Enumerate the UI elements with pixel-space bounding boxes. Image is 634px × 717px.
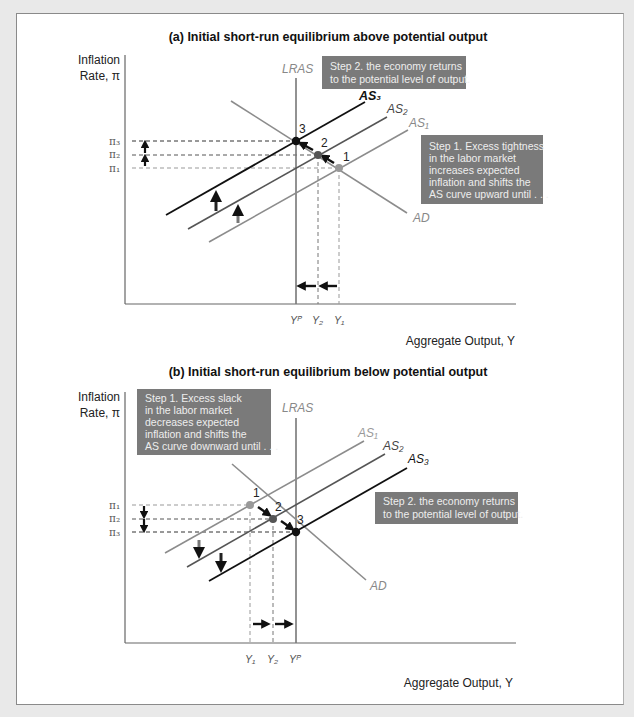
panel-b-y-axis-label-1: Inflation bbox=[78, 390, 120, 404]
panel-a-pi2-tick: π₂ bbox=[109, 148, 120, 160]
svg-text:to the potential level of outp: to the potential level of output. bbox=[383, 508, 523, 520]
panel-b-step2-note: Step 2. the economy returns to the poten… bbox=[375, 492, 523, 524]
panel-b-as3-label: AS₃ bbox=[407, 452, 429, 466]
panel-b-step1-note: Step 1. Excess slack in the labor market… bbox=[137, 389, 278, 455]
panel-b-point-1 bbox=[246, 501, 254, 509]
panel-a-as2-label: AS₂ bbox=[386, 102, 408, 116]
panel-b-lras-label: LRAS bbox=[282, 401, 313, 415]
svg-text:decreases expected: decreases expected bbox=[145, 416, 239, 428]
panel-a-step1-note: Step 1. Excess tightness in the labor ma… bbox=[421, 135, 549, 204]
panel-b-as1-curve bbox=[165, 441, 364, 553]
panel-b-pi3-tick: π₃ bbox=[109, 526, 120, 538]
panel-a-guides bbox=[132, 141, 339, 304]
panel-a-point-3 bbox=[292, 137, 300, 145]
panel-a-step2-note: Step 2. the economy returns to the poten… bbox=[322, 56, 470, 89]
panel-b-y2-tick: Y₂ bbox=[267, 653, 278, 665]
panel-b-point-3 bbox=[292, 528, 300, 536]
svg-text:AS curve upward until . . .: AS curve upward until . . . bbox=[429, 188, 549, 200]
panel-b: (b) Initial short-run equilibrium below … bbox=[78, 365, 523, 690]
panel-a-as2-curve bbox=[188, 117, 387, 229]
svg-text:Step 2. the economy returns: Step 2. the economy returns bbox=[330, 60, 462, 72]
panel-a-title: (a) Initial short-run equilibrium above … bbox=[169, 30, 489, 44]
panel-a-as3-curve bbox=[166, 102, 365, 215]
panel-b-y-axis-label-2: Rate, π bbox=[80, 406, 120, 420]
panel-a-y-axis-label-2: Rate, π bbox=[80, 69, 120, 83]
panel-b-pi2-tick: π₂ bbox=[109, 512, 120, 524]
panel-b-as2-label: AS₂ bbox=[382, 439, 404, 453]
panel-a-point-1-label: 1 bbox=[343, 150, 350, 164]
panel-a-y2-tick: Y₂ bbox=[312, 314, 323, 326]
svg-text:increases expected: increases expected bbox=[429, 164, 520, 176]
svg-text:inflation and shifts the: inflation and shifts the bbox=[429, 176, 531, 188]
panel-b-title: (b) Initial short-run equilibrium below … bbox=[169, 365, 489, 379]
svg-text:Step 1. Excess tightness: Step 1. Excess tightness bbox=[429, 140, 544, 152]
panel-b-yp-tick: Yᴾ bbox=[289, 653, 301, 665]
panel-a-shift-arrows bbox=[216, 196, 238, 223]
panel-b-x-axis-label: Aggregate Output, Y bbox=[404, 676, 513, 690]
panel-a-ad-label: AD bbox=[412, 211, 430, 225]
panel-b-as3-curve bbox=[209, 468, 407, 581]
panel-b-point-2-label: 2 bbox=[275, 500, 282, 514]
svg-text:AS curve downward until . . .: AS curve downward until . . . bbox=[145, 440, 278, 452]
panel-a-point-2 bbox=[314, 151, 322, 159]
panel-b-ad-label: AD bbox=[369, 579, 387, 593]
panel-a-as3-label: AS₃ bbox=[358, 89, 381, 103]
panel-a-pi1-tick: π₁ bbox=[109, 162, 120, 174]
panel-a-y1-tick: Y₁ bbox=[334, 314, 345, 326]
panel-a: (a) Initial short-run equilibrium above … bbox=[78, 30, 549, 348]
svg-text:in the labor market: in the labor market bbox=[145, 404, 232, 416]
svg-text:to the potential level of outp: to the potential level of output. bbox=[330, 73, 470, 85]
panel-b-point-1-label: 1 bbox=[253, 486, 260, 500]
panel-b-pi1-tick: π₁ bbox=[109, 499, 120, 511]
panel-a-pi3-tick: π₃ bbox=[109, 135, 120, 147]
panel-a-x-axis-label: Aggregate Output, Y bbox=[406, 334, 515, 348]
panel-a-y-axis-label-1: Inflation bbox=[78, 53, 120, 67]
panel-b-as2-curve bbox=[187, 454, 385, 567]
svg-text:Step 1. Excess slack: Step 1. Excess slack bbox=[145, 392, 243, 404]
panel-b-point-3-label: 3 bbox=[297, 513, 304, 527]
panel-a-lras-label: LRAS bbox=[282, 62, 313, 76]
panel-b-point-2 bbox=[269, 515, 277, 523]
panel-a-point-1 bbox=[335, 164, 343, 172]
panel-b-as1-label: AS₁ bbox=[357, 426, 378, 440]
panel-a-yp-tick: Yᴾ bbox=[290, 314, 302, 326]
panel-a-as1-label: AS₁ bbox=[408, 116, 429, 130]
panel-b-y1-tick: Y₁ bbox=[245, 653, 256, 665]
ad-as-diagram: (a) Initial short-run equilibrium above … bbox=[0, 0, 634, 717]
panel-a-point-2-label: 2 bbox=[321, 136, 328, 150]
svg-text:inflation and shifts the: inflation and shifts the bbox=[145, 428, 247, 440]
svg-text:Step 2. the economy returns: Step 2. the economy returns bbox=[383, 495, 515, 507]
svg-text:in the labor market: in the labor market bbox=[429, 152, 516, 164]
panel-a-point-3-label: 3 bbox=[299, 122, 306, 136]
